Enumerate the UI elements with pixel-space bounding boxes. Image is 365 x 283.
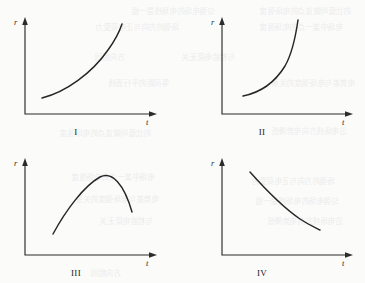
panel-3-axes <box>25 163 152 255</box>
panel-2-caption: II <box>259 127 266 137</box>
panel-3-x-axis-label: t <box>146 258 149 268</box>
panel-1-curve <box>42 24 122 98</box>
x-axis-arrow-icon <box>345 252 353 257</box>
figure-plots: r t I r t II r t III <box>0 0 365 283</box>
y-axis-arrow-icon <box>219 158 225 166</box>
panel-3-curve <box>53 176 132 234</box>
panel-2-x-axis-label: t <box>342 117 345 127</box>
panel-1-caption: I <box>74 127 77 137</box>
figure-sheet: 的比值叫做该点的电场强度 匀强电场的电场线是一组 电场中某一点的电场强度 场强的… <box>0 0 365 283</box>
panel-3-caption: III <box>71 268 81 278</box>
panel-2-axes <box>222 22 348 114</box>
panel-4-x-axis-label: t <box>342 258 345 268</box>
y-axis-arrow-icon <box>22 17 28 25</box>
x-axis-arrow-icon <box>345 111 353 116</box>
panel-4-curve <box>250 172 320 230</box>
y-axis-arrow-icon <box>219 17 225 25</box>
panel-1-axes <box>25 22 152 114</box>
y-axis-arrow-icon <box>22 158 28 166</box>
panel-4: r t IV <box>211 158 353 278</box>
panel-1-x-axis-label: t <box>146 117 149 127</box>
panel-1: r t I <box>14 17 157 137</box>
panel-4-axes <box>222 163 348 255</box>
panel-2: r t II <box>211 17 353 137</box>
x-axis-arrow-icon <box>149 252 157 257</box>
panel-1-y-axis-label: r <box>14 17 18 27</box>
panel-4-caption: IV <box>257 268 267 278</box>
x-axis-arrow-icon <box>149 111 157 116</box>
panel-3-y-axis-label: r <box>14 158 18 168</box>
panel-3: r t III <box>14 158 157 278</box>
panel-4-y-axis-label: r <box>211 158 215 168</box>
panel-2-y-axis-label: r <box>211 17 215 27</box>
panel-2-curve <box>243 20 298 96</box>
